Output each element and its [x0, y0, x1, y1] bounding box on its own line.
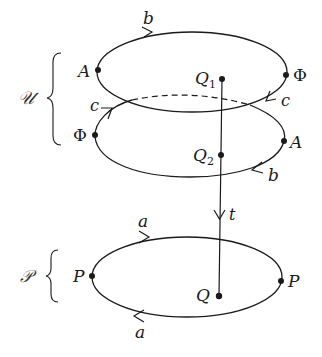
middle-loop-hidden-arc	[132, 95, 250, 105]
point-q1	[219, 76, 225, 82]
label-b-top: b	[143, 8, 154, 28]
vertex-phi-middle	[92, 132, 98, 138]
vertex-p-right	[278, 278, 284, 284]
label-b-bottom: b	[268, 165, 279, 185]
covering-space-diagram: 𝒰 𝒫 b A Φ c c Φ A b Q1 Q2 t a P P Q	[0, 0, 322, 357]
label-phi-top: Φ	[293, 65, 307, 85]
point-q	[216, 293, 222, 299]
label-c-right: c	[281, 91, 290, 110]
vertex-phi-top	[283, 72, 289, 78]
label-a-top-bottom-loop: a	[138, 211, 148, 231]
brace-u	[47, 53, 61, 145]
vertex-p-left	[89, 273, 95, 279]
point-q2	[218, 152, 224, 158]
top-loop	[97, 32, 287, 112]
label-q: Q	[196, 285, 210, 305]
label-a-middle: A	[288, 132, 302, 152]
vertex-a-top	[95, 67, 101, 73]
label-phi-middle: Φ	[73, 125, 87, 145]
label-a-top: A	[76, 61, 90, 81]
label-a-bottom: a	[135, 322, 145, 342]
label-t: t	[229, 205, 236, 224]
label-c-left: c	[90, 96, 99, 115]
group-label-p: 𝒫	[20, 266, 37, 286]
vertical-edge-t	[219, 79, 222, 296]
label-p-right: P	[287, 271, 300, 291]
label-q2: Q2	[193, 145, 214, 168]
label-q1: Q1	[195, 68, 216, 91]
bottom-loop	[92, 237, 282, 317]
vertex-a-middle	[281, 138, 287, 144]
brace-p	[46, 250, 58, 302]
group-label-u: 𝒰	[18, 87, 39, 108]
label-p-left: P	[72, 266, 85, 286]
